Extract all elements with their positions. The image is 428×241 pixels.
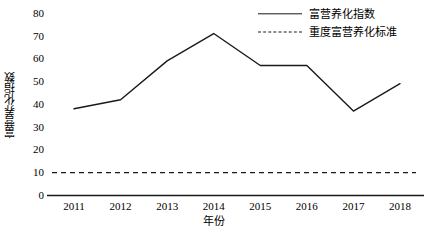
legend-item-eutrophication-index: 富营养化指数 bbox=[258, 6, 426, 22]
solid-line-swatch-icon bbox=[258, 9, 302, 19]
legend-item-label: 富营养化指数 bbox=[309, 9, 375, 20]
x-tick-label: 2011 bbox=[63, 201, 85, 212]
x-axis-title: 年份 bbox=[0, 216, 428, 227]
chart-legend: 富营养化指数 重度富营养化标准 bbox=[258, 6, 426, 42]
x-tick-label: 2015 bbox=[249, 201, 271, 212]
x-tick-label: 2013 bbox=[156, 201, 178, 212]
x-tick-label: 2014 bbox=[203, 201, 225, 212]
eutrophication-index-line bbox=[74, 34, 400, 112]
x-tick-label: 2016 bbox=[296, 201, 318, 212]
dashed-line-swatch-icon bbox=[258, 27, 302, 37]
x-tick-label: 2012 bbox=[110, 201, 132, 212]
eutrophication-index-line-chart: 富营养化指数 80 70 60 50 40 30 20 10 0 2011201… bbox=[0, 0, 428, 241]
x-tick-label: 2017 bbox=[342, 201, 364, 212]
x-tick-label: 2018 bbox=[389, 201, 411, 212]
legend-item-severe-standard: 重度富营养化标准 bbox=[258, 24, 426, 40]
legend-item-label: 重度富营养化标准 bbox=[309, 27, 397, 38]
